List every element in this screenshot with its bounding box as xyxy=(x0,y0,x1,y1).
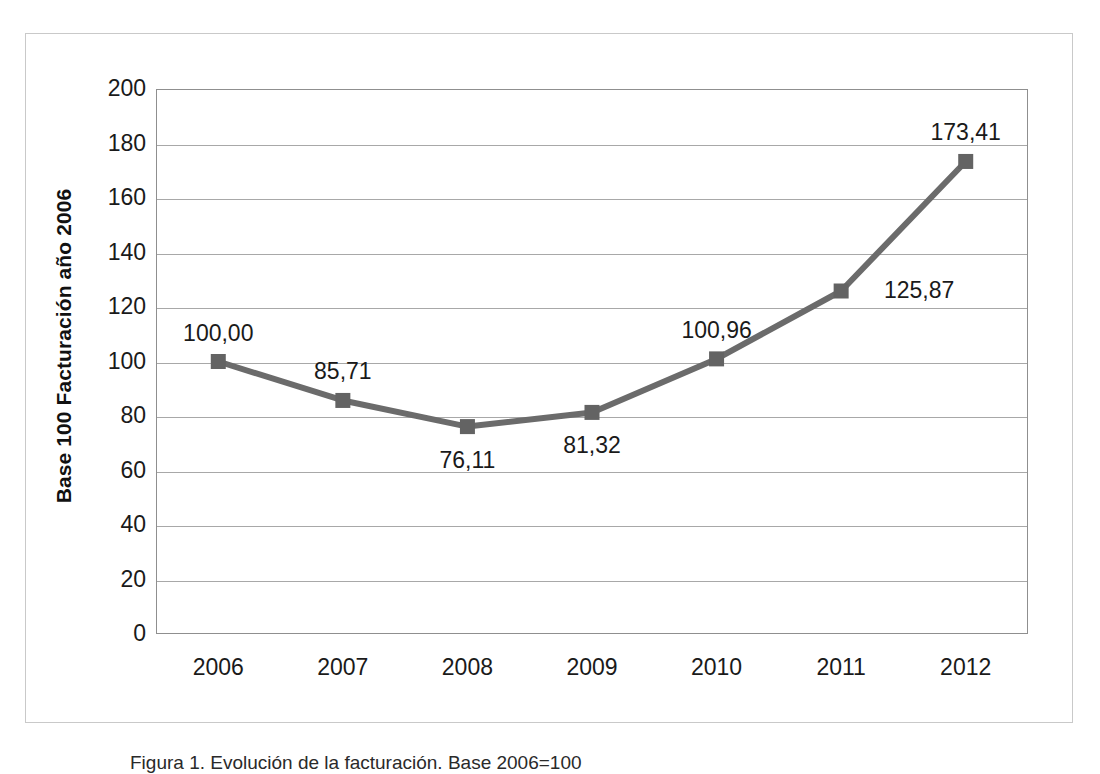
x-tick-label: 2006 xyxy=(163,656,273,679)
x-tick-label: 2011 xyxy=(786,656,896,679)
x-tick-label: 2012 xyxy=(911,656,1021,679)
x-tick-label: 2009 xyxy=(537,656,647,679)
chart-canvas: Base 100 Facturación año 2006 0204060801… xyxy=(26,34,1074,724)
x-tick-label: 2008 xyxy=(412,656,522,679)
x-tick-label: 2010 xyxy=(662,656,772,679)
x-axis-tick-labels: 2006200720082009201020112012 xyxy=(26,34,1074,724)
x-tick-label: 2007 xyxy=(288,656,398,679)
figure-frame: Base 100 Facturación año 2006 0204060801… xyxy=(25,33,1073,723)
figure-caption: Figura 1. Evolución de la facturación. B… xyxy=(130,752,990,774)
